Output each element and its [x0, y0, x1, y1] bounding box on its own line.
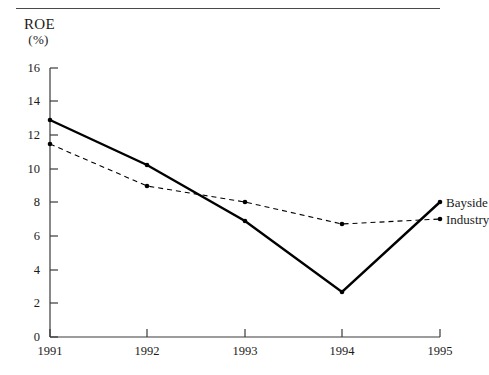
- x-tick-label-1995: 1995: [417, 344, 463, 359]
- series-line-bayside: [50, 120, 440, 292]
- legend-label-bayside: Bayside: [446, 195, 488, 211]
- y-tick-label-0: 0: [18, 330, 40, 345]
- x-tick-label-1993: 1993: [222, 344, 268, 359]
- y-tick-label-16: 16: [18, 61, 40, 76]
- y-tick-label-2: 2: [18, 296, 40, 311]
- y-tick-label-4: 4: [18, 263, 40, 278]
- x-tick-label-1992: 1992: [124, 344, 170, 359]
- y-tick-label-10: 10: [18, 162, 40, 177]
- x-tick-label-1994: 1994: [319, 344, 365, 359]
- y-axis-ticks: [50, 68, 58, 337]
- legend-label-industry: Industry: [446, 212, 489, 228]
- y-tick-label-12: 12: [18, 128, 40, 143]
- y-tick-label-14: 14: [18, 94, 40, 109]
- series-markers-bayside: [48, 118, 443, 295]
- x-tick-label-1991: 1991: [27, 344, 73, 359]
- y-tick-label-8: 8: [18, 195, 40, 210]
- y-tick-label-6: 6: [18, 229, 40, 244]
- series-line-industry: [50, 144, 440, 224]
- series-markers-industry: [48, 142, 443, 227]
- x-axis-ticks: [50, 329, 440, 337]
